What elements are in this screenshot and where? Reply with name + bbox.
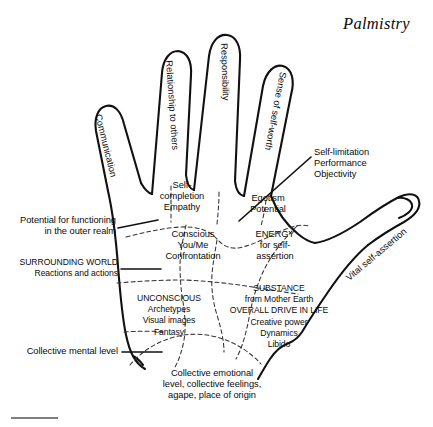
zone-collective-emotional: Collective emotional level, collective f… (132, 368, 292, 402)
annotation-self-limitation: Self-limitation Performance Objectivity (314, 147, 426, 181)
zone-substance: SUBSTANCE from Mother Earth OVERALL DRIV… (224, 283, 334, 350)
zone-unconscious: UNCONSCIOUS Archetypes Visual images Fan… (128, 293, 210, 338)
zone-energy: ENERGY for self- assertion (244, 229, 306, 263)
annotation-surrounding-world: SURROUNDING WORLD Reactions and actions (8, 257, 118, 279)
finger-label-responsibility: Responsibility (219, 43, 231, 101)
potential-outer-realm-leader (118, 220, 158, 228)
zone-conscious: Conscious You/Me Confrontation (150, 229, 236, 263)
page-title: Palmistry (343, 14, 410, 34)
middle-finger-outline (194, 35, 240, 190)
zone-egotism: Egotism Potential (234, 193, 302, 215)
thumb-tip-crease (397, 198, 412, 218)
annotation-collective-mental-level: Collective mental level (8, 346, 118, 357)
zone-self-completion: Self- completion Empathy (146, 180, 218, 214)
palmistry-diagram-page: Palmistry Communication Relationship to … (0, 0, 433, 427)
annotation-potential-outer-realm: Potential for functioning in the outer r… (8, 215, 116, 237)
